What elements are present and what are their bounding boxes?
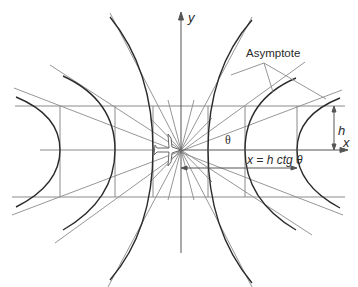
y-axis-arrow-icon	[179, 12, 184, 20]
asymptote-label: Asymptote	[246, 47, 300, 59]
hyperbola-diagram: y x Asymptote θ h x = h ctg θ	[0, 0, 358, 287]
theta-label: θ	[225, 133, 231, 147]
arrow-left-icon	[181, 166, 187, 170]
height-label: h	[338, 123, 345, 138]
height-dimension	[332, 106, 336, 150]
arrow-up-icon	[332, 106, 336, 112]
formula-label: x = h ctg θ	[246, 153, 303, 167]
y-axis-label: y	[187, 10, 196, 25]
hyperbola-left-outer	[16, 97, 60, 207]
hyperbola-left-middle	[63, 76, 115, 230]
hyperbola-left-inner	[110, 17, 153, 280]
arrow-down-icon	[332, 144, 336, 150]
